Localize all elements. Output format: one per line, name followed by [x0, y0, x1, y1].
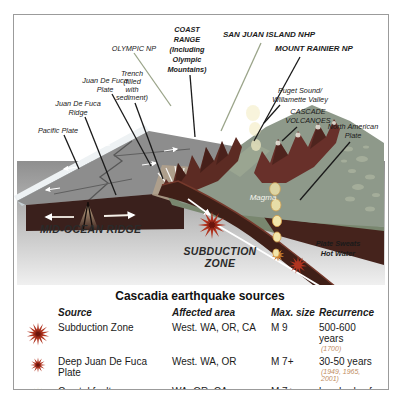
small-red-starburst-icon — [20, 356, 56, 374]
label-coast-range: Mountains) — [168, 65, 207, 74]
table-cell-recurrence: hundreds of years? (CE 900, 1872) — [319, 386, 380, 390]
recurrence-dates: (1949, 1965, 2001) — [319, 368, 380, 382]
pale-star-shape — [30, 387, 46, 390]
table-cell-area: WA, OR, CA — [172, 386, 269, 390]
label-coast-range: RANGE — [174, 35, 201, 44]
label-willamette-valley: Willamette Valley — [272, 95, 329, 104]
column-header-max-size: Max. size — [271, 307, 317, 318]
label-plate-sweats: Plate Sweats — [316, 239, 361, 248]
label-san-juan-island-nhp: SAN JUAN ISLAND NHP — [223, 30, 316, 39]
column-header-source: Source — [58, 307, 170, 318]
table-cell-source: Deep Juan De Fuca Plate — [58, 356, 170, 378]
label-olympic-np: OLYMPIC NP — [112, 44, 156, 53]
earthquake-sources-table: Cascadia earthquake sources Source Affec… — [14, 285, 388, 390]
label-coast-range: COAST — [174, 25, 200, 34]
label-juan-de-fuca-plate: Plate — [97, 85, 114, 94]
table-cell-area: West. WA, OR — [172, 356, 269, 367]
label-coast-range: (Including — [170, 45, 205, 54]
label-coast-range: Olympic — [173, 55, 202, 64]
leader-coast-range — [190, 75, 195, 137]
recurrence-value: hundreds of years? — [319, 386, 372, 390]
label-north-american-plate: Plate — [345, 131, 362, 140]
label-mid-ocean-ridge: MID-OCEAN RIDGE — [40, 223, 142, 235]
label-plate-sweats: Hot Water — [321, 249, 356, 258]
large-red-starburst-icon — [20, 322, 56, 346]
table-cell-max: M 7+ — [271, 386, 317, 390]
recurrence-dates: (1700) — [319, 345, 380, 352]
label-puget-sound: Puget Sound/ — [278, 86, 323, 95]
table-title: Cascadia earthquake sources — [20, 289, 380, 303]
column-header-recurrence: Recurrence — [319, 307, 380, 318]
label-cascade-volcanoes: CASCADE — [290, 107, 325, 116]
table-cell-source: Crustal faults — [58, 386, 170, 390]
cascadia-subduction-diagram: OLYMPIC NP SAN JUAN ISLAND NHP COAST RAN… — [14, 15, 388, 285]
table-cell-source: Subduction Zone — [58, 322, 170, 333]
table-cell-recurrence: 30-50 years (1949, 1965, 2001) — [319, 356, 380, 382]
recurrence-value: 500-600 years — [319, 322, 356, 344]
label-north-american-plate: North American — [328, 122, 378, 131]
table-cell-max: M 9 — [271, 322, 317, 333]
label-magma: Magma — [250, 193, 277, 202]
label-subduction-zone: ZONE — [204, 257, 236, 269]
label-juan-de-fuca-ridge: Ridge — [68, 108, 87, 117]
pale-starburst-icon — [20, 386, 56, 390]
label-subduction-zone: SUBDUCTION — [184, 245, 257, 257]
label-mount-rainier-np: MOUNT RAINIER NP — [275, 44, 353, 53]
label-trench: sediment) — [116, 93, 148, 102]
table-cell-area: West. WA, OR, CA — [172, 322, 269, 333]
table-cell-recurrence: 500-600 years (1700) — [319, 322, 380, 352]
label-pacific-plate: Pacific Plate — [38, 126, 78, 135]
recurrence-value: 30-50 years — [319, 356, 372, 367]
table-cell-max: M 7+ — [271, 356, 317, 367]
label-juan-de-fuca-ridge: Juan De Fuca — [54, 99, 100, 108]
label-cascade-volcanoes: VOLCANOES — [285, 116, 331, 125]
column-header-affected-area: Affected area — [172, 307, 269, 318]
figure-frame: OLYMPIC NP SAN JUAN ISLAND NHP COAST RAN… — [13, 14, 389, 390]
